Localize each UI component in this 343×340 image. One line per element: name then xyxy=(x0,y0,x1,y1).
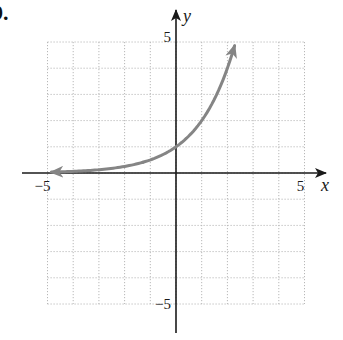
x-tick-label: −5 xyxy=(35,178,51,194)
curve-segment-upper xyxy=(143,46,235,163)
axis-labels: −555−5xy xyxy=(35,6,329,312)
coordinate-graph: −555−5xy xyxy=(0,0,343,340)
x-axis-label: x xyxy=(320,175,329,195)
y-tick-label: 5 xyxy=(164,29,172,45)
exponential-curve xyxy=(51,46,234,172)
curve-segment-lower xyxy=(51,162,143,172)
y-axis-label: y xyxy=(181,6,191,26)
y-tick-label: −5 xyxy=(155,296,171,312)
x-tick-label: 5 xyxy=(297,178,305,194)
